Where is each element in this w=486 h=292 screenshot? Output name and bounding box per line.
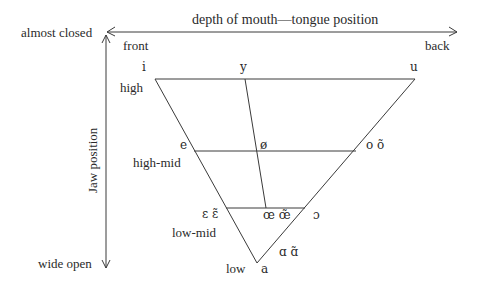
vowel-y: y <box>240 61 247 73</box>
height-low-label: low <box>226 262 246 275</box>
vowel-i: i <box>142 61 146 73</box>
height-high-label: high <box>120 81 143 94</box>
vowel-u: u <box>410 61 418 73</box>
horizontal-axis-label: depth of mouth—tongue position <box>192 13 378 27</box>
vowel-o: o õ <box>366 139 384 151</box>
wide-open-label: wide open <box>38 257 92 270</box>
almost-closed-label: almost closed <box>21 26 92 39</box>
jaw-position-label: Jaw position <box>86 128 99 193</box>
back-label: back <box>425 39 450 52</box>
vowel-oe: œ œ̃ <box>263 209 291 221</box>
vowel-o-slash: ø <box>260 139 267 151</box>
vowel-epsilon: ɛ ɛ̃ <box>202 208 218 220</box>
height-high-mid-label: high-mid <box>133 156 181 169</box>
vowel-a: a <box>261 263 268 275</box>
vowel-chart-diagram: depth of mouth—tongue position almost cl… <box>0 0 486 292</box>
front-label: front <box>123 39 148 52</box>
height-low-mid-label: low-mid <box>172 226 216 239</box>
vowel-e: e <box>180 139 187 151</box>
vowel-open-o: ɔ <box>313 209 320 221</box>
vowel-chart-lines <box>0 0 486 292</box>
vowel-alpha: ɑ ɑ̃ <box>279 246 298 258</box>
